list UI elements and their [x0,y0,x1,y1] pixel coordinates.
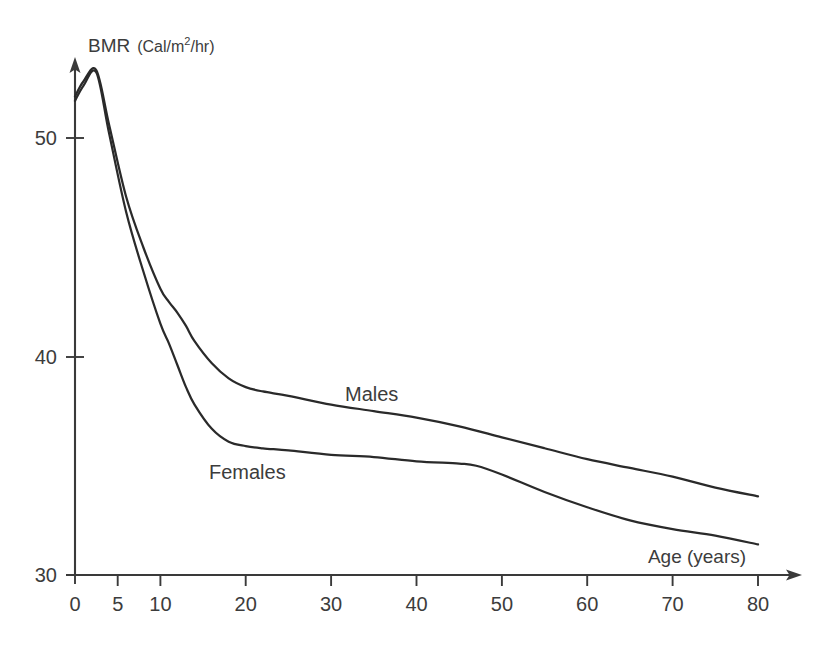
y-axis-title-unit-suffix: /hr) [190,38,214,55]
y-tick-label-2: 50 [35,127,57,149]
bmr-vs-age-line-chart: 30 40 50 0 5 10 20 30 40 50 60 70 80 [0,0,832,645]
x-tick-label-8: 70 [661,593,683,615]
svg-text:BMR(Cal/m2/hr): BMR(Cal/m2/hr) [88,35,214,56]
y-tick-label-1: 40 [35,346,57,368]
y-tick-label-0: 30 [35,564,57,586]
y-axis-title: BMR(Cal/m2/hr) [88,35,214,56]
x-tick-label-2: 10 [149,593,171,615]
x-tick-label-1: 5 [112,593,123,615]
x-tick-label-4: 30 [320,593,342,615]
x-tick-label-3: 20 [235,593,257,615]
x-tick-label-7: 60 [576,593,598,615]
y-axis-title-main: BMR [88,35,130,56]
series-label-females: Females [209,461,286,483]
chart-figure: 30 40 50 0 5 10 20 30 40 50 60 70 80 [0,0,832,645]
y-axis-title-unit-prefix: (Cal/m [137,38,184,55]
x-tick-label-0: 0 [69,593,80,615]
x-tick-label-9: 80 [747,593,769,615]
x-axis-title: Age (years) [648,546,746,567]
x-tick-label-5: 40 [405,593,427,615]
x-tick-label-6: 50 [491,593,513,615]
series-label-males: Males [345,383,398,405]
